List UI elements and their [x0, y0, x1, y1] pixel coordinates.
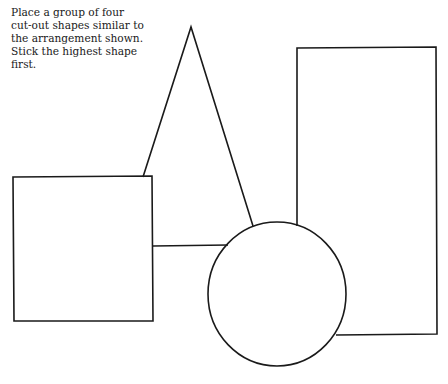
rectangle-shape	[297, 47, 437, 335]
triangle-shape	[143, 27, 253, 226]
circle-shape	[208, 222, 346, 366]
shapes-arrangement	[0, 0, 448, 384]
square-shape	[13, 176, 153, 321]
connector-edge	[153, 245, 228, 246]
